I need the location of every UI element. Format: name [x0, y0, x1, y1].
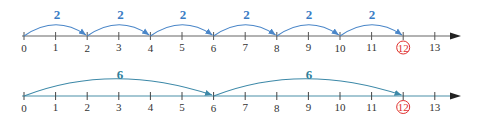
jump-label: 2 — [54, 7, 61, 22]
jump-arrow-icon — [277, 25, 339, 36]
tick-label: 3 — [116, 41, 122, 53]
jump-label: 2 — [306, 7, 313, 22]
tick-label: 3 — [116, 101, 122, 113]
tick-label: 1 — [53, 41, 59, 53]
tick-label: 10 — [335, 101, 347, 113]
tick-labels: 0 1 2 3 4 5 6 7 8 9 10 11 12 13 — [21, 41, 441, 54]
highlighted-tick-label: 12 — [398, 42, 409, 54]
tick-label: 13 — [429, 41, 441, 53]
tick-label: 11 — [366, 41, 377, 53]
jump-arrow-icon — [24, 25, 86, 36]
tick-label: 4 — [148, 101, 154, 113]
highlighted-tick-label: 12 — [398, 101, 409, 113]
tick-label: 6 — [211, 42, 217, 54]
tick-label: 5 — [179, 41, 185, 53]
jump-arrow-icon — [87, 25, 149, 36]
number-line-skip-by-6: 0 1 2 3 4 5 6 7 8 9 10 11 12 13 6 6 — [21, 67, 461, 114]
number-line-skip-by-2: 0 1 2 3 4 5 6 7 8 9 10 11 12 13 2 2 — [21, 7, 461, 54]
tick-label: 9 — [306, 41, 312, 53]
jump-arrow-icon — [340, 25, 402, 36]
jump-labels: 2 2 2 2 2 2 — [54, 7, 376, 22]
tick-label: 8 — [274, 42, 280, 54]
tick-label: 11 — [366, 101, 377, 113]
axis-arrowhead-icon — [450, 93, 461, 100]
tick-label: 10 — [335, 42, 347, 54]
tick-labels: 0 1 2 3 4 5 6 7 8 9 10 11 12 13 — [21, 101, 441, 115]
jump-label: 2 — [117, 7, 124, 22]
tick-label: 6 — [211, 102, 217, 114]
tick-label: 9 — [306, 101, 312, 113]
jump-arrow-icon — [214, 25, 276, 36]
jump-label: 2 — [243, 7, 250, 22]
tick-label: 0 — [21, 42, 27, 54]
jump-label: 2 — [369, 7, 376, 22]
jump-label: 6 — [117, 67, 124, 82]
tick-label: 1 — [53, 101, 59, 113]
tick-label: 2 — [84, 101, 90, 113]
tick-label: 0 — [21, 102, 27, 114]
tick-label: 2 — [84, 42, 90, 54]
jump-arrow-icon — [150, 25, 212, 36]
axis-arrowhead-icon — [450, 33, 461, 40]
tick-label: 8 — [274, 102, 280, 114]
jump-arcs — [24, 25, 402, 36]
number-line-diagram: 0 1 2 3 4 5 6 7 8 9 10 11 12 13 2 2 — [0, 0, 486, 122]
jump-label: 6 — [306, 67, 313, 82]
tick-label: 4 — [148, 42, 154, 54]
tick-label: 13 — [429, 101, 441, 113]
tick-label: 7 — [242, 41, 248, 53]
tick-label: 5 — [179, 101, 185, 113]
jump-label: 2 — [180, 7, 187, 22]
jump-arcs — [24, 79, 402, 96]
tick-label: 7 — [242, 101, 248, 113]
